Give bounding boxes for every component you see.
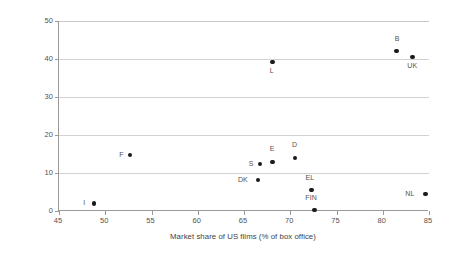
x-tick-mark-80	[383, 211, 384, 215]
data-label-uk: UK	[407, 62, 417, 70]
x-tick-label-45: 45	[45, 216, 71, 225]
data-point-f[interactable]	[128, 153, 132, 157]
x-tick-mark-50	[105, 211, 106, 215]
y-tick-label-10: 10	[27, 168, 53, 177]
data-label-f: F	[119, 151, 123, 159]
gridline-y-40	[59, 59, 429, 60]
data-label-i: I	[83, 199, 85, 207]
x-tick-label-65: 65	[230, 216, 256, 225]
x-tick-label-55: 55	[138, 216, 164, 225]
data-label-el: EL	[306, 174, 315, 182]
data-label-s: S	[249, 160, 254, 168]
x-tick-mark-65	[244, 211, 245, 215]
data-label-nl: NL	[405, 190, 414, 198]
x-tick-label-85: 85	[415, 216, 441, 225]
x-tick-label-50: 50	[91, 216, 117, 225]
data-point-d[interactable]	[293, 156, 297, 160]
scatter-chart: Density of multiplexes (% of total scree…	[0, 0, 449, 254]
y-tick-mark-30	[55, 97, 59, 98]
gridline-y-50	[59, 21, 429, 22]
y-tick-label-30: 30	[27, 92, 53, 101]
x-tick-mark-75	[337, 211, 338, 215]
data-point-dk[interactable]	[256, 178, 260, 182]
y-tick-label-40: 40	[27, 54, 53, 63]
data-label-dk: DK	[238, 176, 248, 184]
plot-area: IFDKSELDELFINBUKNL	[58, 21, 428, 211]
y-tick-label-20: 20	[27, 130, 53, 139]
x-tick-mark-45	[59, 211, 60, 215]
x-tick-mark-60	[198, 211, 199, 215]
y-tick-label-50: 50	[27, 16, 53, 25]
y-tick-label-0: 0	[27, 206, 53, 215]
gridline-y-30	[59, 97, 429, 98]
data-point-s[interactable]	[258, 162, 262, 166]
data-point-l[interactable]	[270, 60, 274, 64]
data-point-e[interactable]	[270, 160, 274, 164]
data-point-uk[interactable]	[410, 55, 414, 59]
data-point-b[interactable]	[394, 49, 398, 53]
x-tick-mark-85	[429, 211, 430, 215]
x-tick-label-80: 80	[369, 216, 395, 225]
x-tick-mark-55	[152, 211, 153, 215]
data-label-l: L	[270, 67, 274, 75]
y-tick-mark-50	[55, 21, 59, 22]
x-tick-label-70: 70	[276, 216, 302, 225]
data-point-i[interactable]	[92, 201, 96, 205]
data-label-fin: FIN	[305, 194, 317, 202]
data-point-fin[interactable]	[312, 208, 316, 212]
y-tick-mark-40	[55, 59, 59, 60]
data-point-el[interactable]	[309, 188, 313, 192]
data-label-b: B	[395, 35, 400, 43]
x-tick-label-75: 75	[323, 216, 349, 225]
gridline-y-20	[59, 135, 429, 136]
data-point-nl[interactable]	[423, 192, 427, 196]
y-tick-mark-20	[55, 135, 59, 136]
x-tick-mark-70	[290, 211, 291, 215]
x-tick-label-60: 60	[184, 216, 210, 225]
y-tick-mark-10	[55, 173, 59, 174]
gridline-y-10	[59, 173, 429, 174]
x-axis-title: Market share of US films (% of box offic…	[58, 232, 428, 241]
data-label-e: E	[270, 145, 275, 153]
data-label-d: D	[292, 141, 297, 149]
